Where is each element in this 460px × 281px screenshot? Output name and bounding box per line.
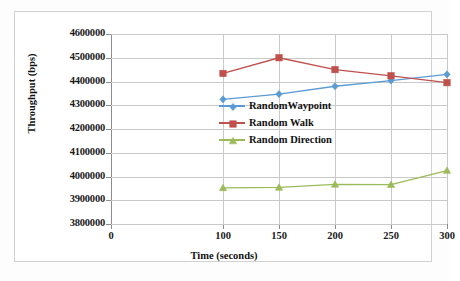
y-tick-label: 4300000 [23, 98, 105, 109]
y-axis-title: Throughput (bps) [26, 24, 37, 164]
data-point-marker [444, 79, 450, 85]
legend-item-2[interactable]: Random Walk [219, 115, 332, 131]
gridline [111, 224, 447, 225]
legend-square-icon [219, 117, 245, 129]
legend-diamond-icon [219, 100, 245, 112]
y-tick-label: 3900000 [23, 193, 105, 204]
series-2 [220, 55, 450, 86]
data-point-marker [443, 167, 450, 173]
y-tick-label: 4200000 [23, 122, 105, 133]
x-tick-mark [447, 224, 448, 229]
legend-triangle-icon [219, 134, 245, 146]
data-point-marker [220, 70, 226, 76]
legend-item-3[interactable]: Random Direction [219, 132, 332, 148]
x-axis-title: Time (seconds) [15, 250, 433, 261]
y-tick-label: 3800000 [23, 217, 105, 228]
data-point-marker [332, 66, 338, 72]
series-3 [219, 167, 450, 191]
x-tick-label: 250 [371, 230, 411, 241]
data-point-marker [388, 73, 394, 79]
x-tick-label: 100 [203, 230, 243, 241]
y-tick-label: 4100000 [23, 146, 105, 157]
data-point-marker [230, 103, 236, 110]
legend: RandomWaypointRandom WalkRandom Directio… [219, 98, 332, 149]
y-tick-label: 4400000 [23, 75, 105, 86]
legend-label: RandomWaypoint [249, 100, 331, 112]
data-point-marker [229, 137, 236, 143]
x-tick-label: 150 [259, 230, 299, 241]
data-point-marker [276, 55, 282, 61]
x-tick-label: 0 [91, 230, 131, 241]
y-tick-label: 4000000 [23, 170, 105, 181]
data-point-marker [332, 83, 338, 90]
y-tick-label: 4500000 [23, 51, 105, 62]
legend-label: Random Walk [249, 117, 314, 129]
x-tick-label: 300 [427, 230, 460, 241]
legend-item-1[interactable]: RandomWaypoint [219, 98, 332, 114]
chart-frame: Throughput (bps) Time (seconds) 46000004… [14, 11, 432, 262]
vertical-gridline [447, 34, 448, 224]
data-point-marker [230, 121, 236, 127]
y-tick-label: 4600000 [23, 27, 105, 38]
legend-label: Random Direction [249, 134, 332, 146]
data-point-marker [276, 90, 282, 97]
x-tick-label: 200 [315, 230, 355, 241]
data-point-marker [444, 71, 450, 78]
